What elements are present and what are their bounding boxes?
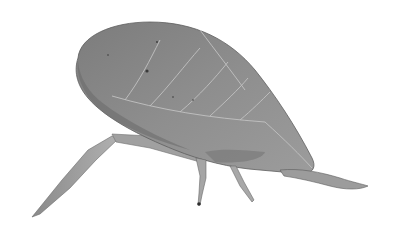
photo-canvas (0, 0, 394, 235)
middle-leg (196, 158, 206, 205)
head-snout (280, 169, 368, 189)
front-leg (230, 166, 254, 202)
leaf-insect-illustration (0, 0, 394, 235)
